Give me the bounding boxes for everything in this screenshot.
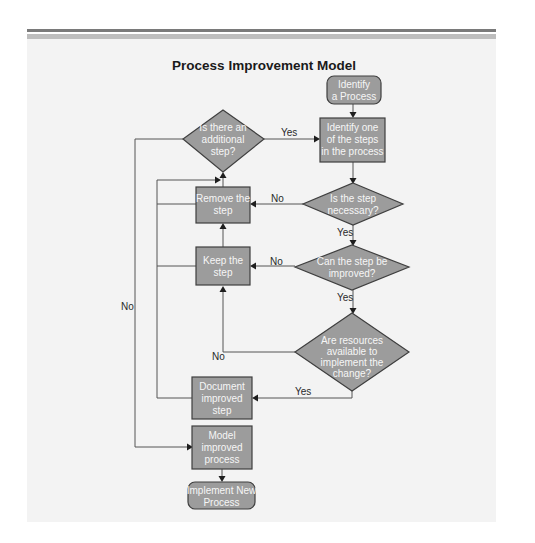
node-remove-step: Remove the step xyxy=(196,187,250,223)
node-resources-decision: Are resources available to implement the… xyxy=(295,313,409,391)
connector-additional-no xyxy=(135,139,188,447)
node-text: step xyxy=(214,267,233,278)
connector-resources-no xyxy=(223,290,295,352)
node-text: step xyxy=(214,205,233,216)
label-necessary-no: No xyxy=(271,193,284,204)
node-text: improved? xyxy=(329,268,376,279)
node-text: process xyxy=(204,454,239,465)
node-text: Is there an xyxy=(199,122,246,133)
node-text: a Process xyxy=(332,91,376,102)
node-text: step? xyxy=(211,146,236,157)
arrow-head xyxy=(250,201,256,208)
node-improvable-decision: Can the step be improved? xyxy=(295,245,409,290)
flowchart: Process Improvement Model xyxy=(0,0,535,543)
label-improvable-no: No xyxy=(270,256,283,267)
node-text: Process xyxy=(203,497,239,508)
arrow-head xyxy=(350,112,357,118)
node-text: Document xyxy=(199,381,245,392)
node-text: Identify xyxy=(338,79,370,90)
node-text: Model xyxy=(208,430,235,441)
node-text: Keep the xyxy=(203,255,243,266)
node-additional-step-decision: Is there an additional step? xyxy=(183,110,264,172)
node-text: step xyxy=(213,405,232,416)
arrow-head xyxy=(220,172,227,178)
label-necessary-yes: Yes xyxy=(337,227,353,238)
label-improvable-yes: Yes xyxy=(337,292,353,303)
label-resources-no: No xyxy=(212,351,225,362)
node-text: Remove the xyxy=(196,193,250,204)
node-text: Is the step xyxy=(330,193,377,204)
arrow-head xyxy=(250,263,256,270)
decision-shape xyxy=(303,183,403,225)
arrow-head xyxy=(219,476,226,482)
node-identify-one-step: Identify one of the steps in the process xyxy=(320,118,385,162)
arrow-head xyxy=(220,286,227,292)
node-necessary-decision: Is the step necessary? xyxy=(303,183,403,225)
label-resources-yes: Yes xyxy=(295,386,311,397)
arrow-head xyxy=(314,136,320,143)
node-keep-step: Keep the step xyxy=(196,247,250,285)
node-text: additional xyxy=(202,134,245,145)
node-text: in the process xyxy=(321,146,383,157)
process-shape xyxy=(196,247,250,285)
label-additional-yes: Yes xyxy=(281,127,297,138)
node-text: improved xyxy=(201,442,242,453)
node-text: of the steps xyxy=(327,134,379,145)
node-text: available to xyxy=(327,346,378,357)
node-text: Identify one xyxy=(327,122,379,133)
arrow-head xyxy=(220,223,227,229)
node-text: implement the xyxy=(321,357,384,368)
node-implement-new-process: Implement New Process xyxy=(187,482,257,509)
node-document-step: Document improved step xyxy=(192,377,252,419)
node-model-process: Model improved process xyxy=(192,426,252,469)
label-additional-no: No xyxy=(121,301,134,312)
node-text: Can the step be xyxy=(317,256,388,267)
diagram-title: Process Improvement Model xyxy=(172,58,356,73)
node-text: Implement New xyxy=(187,485,257,496)
arrow-head xyxy=(252,395,258,402)
node-text: necessary? xyxy=(327,205,379,216)
node-text: change? xyxy=(333,368,372,379)
node-text: Are resources xyxy=(321,335,383,346)
node-text: improved xyxy=(201,393,242,404)
node-identify-a-process: Identify a Process xyxy=(327,76,381,104)
